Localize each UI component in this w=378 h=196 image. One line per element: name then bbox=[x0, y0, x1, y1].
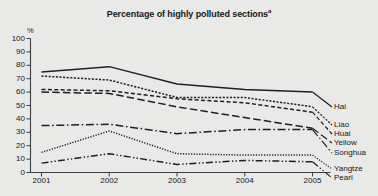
legend-connector-hai bbox=[313, 92, 333, 107]
chart-legend-swatches bbox=[313, 92, 333, 178]
chart-series-lines bbox=[42, 67, 313, 165]
series-line-liao bbox=[42, 76, 313, 107]
legend-connector-yangtze bbox=[313, 155, 333, 169]
series-line-pearl bbox=[42, 154, 313, 165]
series-line-yangtze bbox=[42, 131, 313, 155]
chart-plot-area bbox=[0, 0, 378, 196]
legend-connector-songhua bbox=[313, 130, 333, 153]
series-line-huai bbox=[42, 89, 313, 112]
chart-axes bbox=[27, 39, 331, 177]
chart-figure: Percentage of highly polluted sectionsa … bbox=[0, 0, 378, 196]
series-line-songhua bbox=[42, 124, 313, 133]
series-line-hai bbox=[42, 67, 313, 92]
legend-connector-pearl bbox=[313, 162, 333, 178]
